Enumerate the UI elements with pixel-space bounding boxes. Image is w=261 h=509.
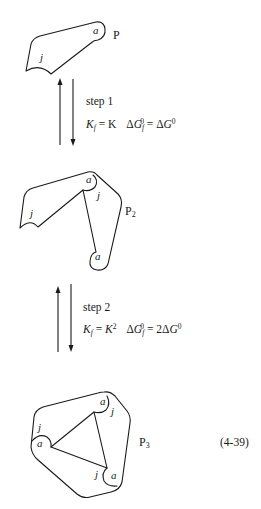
arrow-up-icon — [56, 286, 61, 293]
step-1-equation: Kf = KΔGf0 = ΔG0 — [86, 118, 176, 132]
p3-acceptor-left-label: a — [37, 438, 43, 449]
p3-joint-right-label: j — [95, 469, 98, 480]
equation-number: (4-39) — [220, 437, 249, 449]
p2-joint-left-label: j — [30, 208, 33, 219]
arrow-down-icon — [69, 345, 74, 352]
arrow-down-icon — [71, 139, 76, 146]
p2-acceptor-top-label: a — [86, 174, 92, 185]
p-acceptor-label: a — [93, 25, 99, 36]
structure-p2-name: P2 — [125, 205, 136, 219]
step-1-label: step 1 — [86, 96, 113, 108]
p2-joint-top-label: j — [97, 190, 100, 201]
p-joint-label: j — [40, 52, 43, 63]
p3-acceptor-right-label: a — [111, 470, 117, 481]
step-1-equilibrium-arrows — [58, 78, 76, 146]
arrow-up-icon — [58, 78, 63, 85]
structure-p3-cyclic-trimer — [31, 392, 130, 498]
structure-p2-dimer — [20, 172, 122, 270]
p3-joint-left-label: j — [38, 422, 41, 433]
step-2-equation: Kf = K2ΔGf0 = 2ΔG0 — [83, 323, 181, 337]
structure-p3-name: P3 — [139, 436, 150, 450]
p3-acceptor-top-label: a — [100, 396, 106, 407]
step-2-label: step 2 — [83, 302, 110, 314]
structure-p-name: P — [113, 29, 120, 41]
p2-acceptor-bottom-label: a — [95, 251, 101, 262]
p3-joint-top-label: j — [111, 406, 114, 417]
step-2-equilibrium-arrows — [56, 284, 74, 352]
